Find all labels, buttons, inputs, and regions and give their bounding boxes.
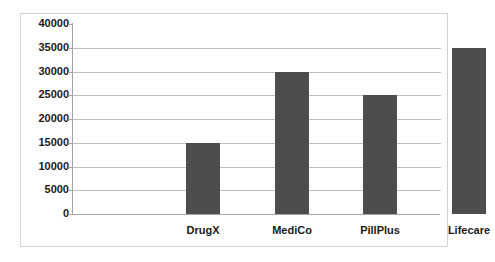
x-axis-tick-label-drugx: DrugX xyxy=(159,224,247,236)
y-axis-tick xyxy=(68,24,73,25)
bar-drugx[interactable] xyxy=(186,143,220,214)
y-axis-tick-label: 15000 xyxy=(9,137,69,148)
chart-frame: 40000 35000 30000 25000 20000 15000 1000… xyxy=(20,13,448,247)
y-axis-tick xyxy=(68,214,73,215)
y-axis-label-group: 40000 35000 30000 25000 20000 15000 1000… xyxy=(9,24,69,214)
x-axis-label-group: DrugX MediCo PillPlus Lifecare xyxy=(73,218,441,244)
x-axis-tick-label-pillplus: PillPlus xyxy=(336,224,424,236)
x-axis-line xyxy=(72,214,440,215)
bar-pillplus[interactable] xyxy=(363,95,397,214)
y-axis-tick-label: 0 xyxy=(9,208,69,219)
gridline xyxy=(73,72,441,73)
gridline xyxy=(73,48,441,49)
y-axis-tick-label: 20000 xyxy=(9,113,69,124)
y-axis-tick-label: 30000 xyxy=(9,66,69,77)
y-axis-tick-label: 35000 xyxy=(9,42,69,53)
bar-medico[interactable] xyxy=(275,72,309,215)
y-axis-tick-label: 5000 xyxy=(9,184,69,195)
x-axis-tick-label-lifecare: Lifecare xyxy=(425,224,495,236)
x-axis-tick-label-medico: MediCo xyxy=(248,224,336,236)
bar-lifecare[interactable] xyxy=(452,48,486,214)
plot-area xyxy=(73,24,441,214)
y-axis-tick-label: 40000 xyxy=(9,18,69,29)
y-axis-tick-label: 25000 xyxy=(9,89,69,100)
y-axis-tick-label: 10000 xyxy=(9,161,69,172)
